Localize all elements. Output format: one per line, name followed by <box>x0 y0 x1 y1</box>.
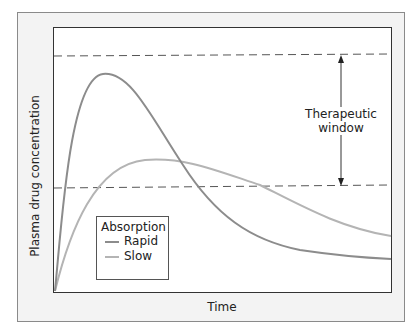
annotation-line-2: window <box>305 121 377 135</box>
therapeutic-window-label: Therapeutic window <box>303 107 379 135</box>
upper-threshold-line <box>54 54 390 56</box>
y-axis-label: Plasma drug concentration <box>28 95 42 257</box>
legend-item-slow: Slow <box>101 249 164 264</box>
annotation-line-1: Therapeutic <box>305 107 377 121</box>
chart-svg <box>0 0 418 329</box>
legend: Absorption Rapid Slow <box>96 216 169 280</box>
arrow-head-up-icon <box>338 55 344 63</box>
legend-label-rapid: Rapid <box>124 234 158 249</box>
arrow-head-down-icon <box>338 178 344 186</box>
legend-label-slow: Slow <box>124 249 152 264</box>
rapid-swatch-icon <box>105 241 119 243</box>
lower-threshold-line <box>54 185 390 188</box>
slow-swatch-icon <box>105 256 119 258</box>
legend-item-rapid: Rapid <box>101 234 164 249</box>
legend-title: Absorption <box>101 220 164 234</box>
x-axis-label: Time <box>207 300 236 314</box>
